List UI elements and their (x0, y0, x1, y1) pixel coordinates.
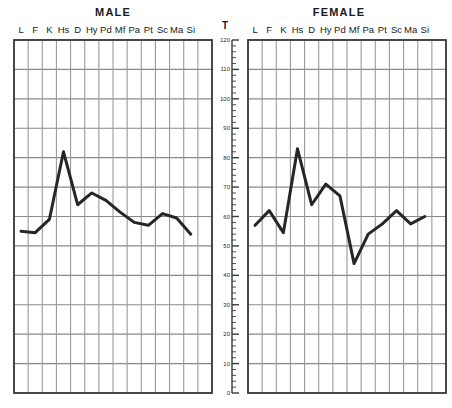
t-tick-70: 70 (216, 184, 230, 190)
t-tick-120: 120 (216, 37, 230, 43)
t-tick-30: 30 (216, 302, 230, 308)
profile-plot-svg (0, 0, 452, 408)
female-panel (248, 40, 446, 393)
t-tick-10: 10 (216, 361, 230, 367)
mmpi-profile-figure: MALE FEMALE T LFKHsDHyPdMfPaPtScMaSi LFK… (0, 0, 452, 408)
male-panel (14, 40, 212, 393)
t-tick-90: 90 (216, 125, 230, 131)
t-tick-20: 20 (216, 331, 230, 337)
t-tick-40: 40 (216, 272, 230, 278)
t-tick-60: 60 (216, 214, 230, 220)
male-profile-line (21, 152, 191, 234)
t-score-ruler (232, 40, 239, 393)
t-tick-50: 50 (216, 243, 230, 249)
t-tick-110: 110 (216, 66, 230, 72)
t-tick-80: 80 (216, 155, 230, 161)
t-tick-0: 0 (216, 390, 230, 396)
t-tick-100: 100 (216, 96, 230, 102)
